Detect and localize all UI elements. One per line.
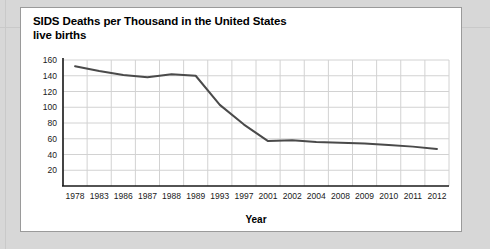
y-axis-tick-label: 80 [48,118,58,128]
x-axis-tick-label: 2001 [259,191,278,201]
chart-plot-container: 20406080100120140160 1978198319861987198… [21,46,461,231]
x-axis-tick-label: 1997 [234,191,253,201]
x-axis-tick-label: 2009 [355,191,374,201]
x-axis-title-text: Year [245,214,266,225]
chart-title-line-2: live births [33,29,433,43]
chart-panel: SIDS Deaths per Thousand in the United S… [20,7,462,232]
chart-title-line-1: SIDS Deaths per Thousand in the United S… [33,15,433,29]
y-axis-tick-label: 160 [43,55,57,65]
x-axis-tick-label: 1993 [210,191,229,201]
x-axis-tick-label: 2004 [307,191,326,201]
y-axis-tick-label: 60 [48,134,58,144]
x-axis-tick-label: 1988 [162,191,181,201]
line-chart: 20406080100120140160 1978198319861987198… [21,46,461,231]
y-axis-tick-label: 40 [48,150,58,160]
x-axis-tick-label: 2010 [379,191,398,201]
x-axis-tick-label: 1983 [90,191,109,201]
y-axis-tick-labels: 20406080100120140160 [43,55,57,175]
y-axis-tick-label: 100 [43,102,57,112]
x-axis-tick-label: 2012 [427,191,446,201]
background-rule-vertical [5,0,6,249]
x-axis-tick-labels: 1978198319861987198819891993199720012002… [66,191,447,201]
chart-title: SIDS Deaths per Thousand in the United S… [33,15,433,42]
x-axis-tick-label: 1989 [186,191,205,201]
y-axis-tick-label: 140 [43,71,57,81]
x-axis-tick-label: 1978 [66,191,85,201]
x-axis-tick-label: 2002 [283,191,302,201]
y-axis-tick-label: 20 [48,165,58,175]
x-axis-tick-label: 2011 [404,191,423,201]
y-axis-tick-label: 120 [43,87,57,97]
x-axis-tick-label: 1986 [114,191,133,201]
x-axis-tick-label: 2008 [331,191,350,201]
x-axis-title: Year [245,214,266,225]
screenshot-root: SIDS Deaths per Thousand in the United S… [0,0,490,249]
x-axis-tick-label: 1987 [138,191,157,201]
